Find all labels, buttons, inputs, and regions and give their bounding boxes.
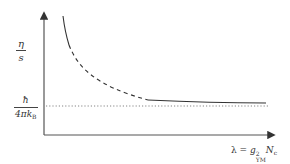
fraction-bar bbox=[16, 50, 26, 51]
equals-sign: = bbox=[237, 145, 250, 155]
curve-weak-coupling bbox=[63, 16, 69, 45]
bound-denominator-sub: B bbox=[32, 113, 36, 120]
diagram-canvas bbox=[0, 0, 290, 164]
bound-label-denominator: 4πkB bbox=[14, 109, 38, 122]
n-subscript: c bbox=[274, 149, 277, 156]
n-symbol: N bbox=[266, 145, 274, 155]
y-label-numerator: η bbox=[16, 38, 26, 49]
bound-label-numerator: ħ bbox=[21, 95, 31, 106]
bound-denominator-main: 4πk bbox=[15, 109, 32, 119]
curve-intermediate-coupling bbox=[69, 45, 148, 100]
fraction-bar bbox=[14, 107, 38, 108]
y-axis-label: η s bbox=[16, 38, 26, 63]
x-axis-label: λ = g2YMNc bbox=[231, 145, 277, 163]
curve-strong-coupling bbox=[148, 100, 266, 103]
y-label-denominator: s bbox=[17, 52, 24, 63]
g-subscript: YM bbox=[256, 157, 266, 163]
g-scripts: 2YM bbox=[256, 151, 266, 163]
bound-label: ħ 4πkB bbox=[14, 95, 38, 122]
